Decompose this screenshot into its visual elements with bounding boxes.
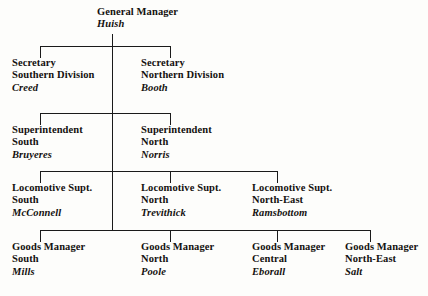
node-role: Secretary: [12, 57, 95, 69]
node-region: Central: [252, 253, 325, 265]
node-locomotive-supt-north-east: Locomotive Supt. North-East Ramsbottom: [252, 182, 332, 219]
org-chart: General Manager Huish Secretary Southern…: [0, 0, 428, 296]
node-region: Southern Division: [12, 69, 95, 81]
node-role: Goods Manager: [252, 241, 325, 253]
node-goods-manager-south: Goods Manager South Mills: [12, 241, 85, 278]
node-region: North: [141, 253, 214, 265]
node-person: McConnell: [12, 207, 92, 219]
node-person: Salt: [345, 266, 418, 278]
node-person: Creed: [12, 82, 95, 94]
node-superintendent-north: Superintendent North Norris: [141, 124, 212, 161]
node-person: Norris: [141, 149, 212, 161]
connector-bar-level3: [40, 171, 278, 172]
node-secretary-northern-division: Secretary Northern Division Booth: [141, 57, 224, 94]
node-role: Goods Manager: [141, 241, 214, 253]
node-role: General Manager: [97, 6, 178, 18]
node-region: North-East: [345, 253, 418, 265]
node-person: Huish: [97, 18, 178, 30]
node-person: Bruyeres: [12, 149, 83, 161]
node-person: Poole: [141, 266, 214, 278]
node-role: Locomotive Supt.: [12, 182, 92, 194]
node-role: Goods Manager: [345, 241, 418, 253]
connector-bar-level4: [40, 230, 371, 231]
node-region: South: [12, 136, 83, 148]
connector-bar-level2: [40, 113, 171, 114]
node-region: South: [12, 194, 92, 206]
node-role: Goods Manager: [12, 241, 85, 253]
node-goods-manager-north-east: Goods Manager North-East Salt: [345, 241, 418, 278]
node-superintendent-south: Superintendent South Bruyeres: [12, 124, 83, 161]
node-locomotive-supt-south: Locomotive Supt. South McConnell: [12, 182, 92, 219]
node-secretary-southern-division: Secretary Southern Division Creed: [12, 57, 95, 94]
connector-bar-level1: [40, 46, 171, 47]
node-role: Locomotive Supt.: [252, 182, 332, 194]
node-region: North: [141, 136, 212, 148]
node-goods-manager-central: Goods Manager Central Eborall: [252, 241, 325, 278]
node-role: Secretary: [141, 57, 224, 69]
node-person: Ramsbottom: [252, 207, 332, 219]
node-role: Superintendent: [141, 124, 212, 136]
node-person: Booth: [141, 82, 224, 94]
node-general-manager: General Manager Huish: [97, 6, 178, 31]
node-region: North: [141, 194, 221, 206]
node-role: Locomotive Supt.: [141, 182, 221, 194]
node-locomotive-supt-north: Locomotive Supt. North Trevithick: [141, 182, 221, 219]
node-region: South: [12, 253, 85, 265]
node-role: Superintendent: [12, 124, 83, 136]
connector-spine: [112, 34, 113, 230]
node-person: Eborall: [252, 266, 325, 278]
node-region: North-East: [252, 194, 332, 206]
node-person: Mills: [12, 266, 85, 278]
node-region: Northern Division: [141, 69, 224, 81]
node-person: Trevithick: [141, 207, 221, 219]
node-goods-manager-north: Goods Manager North Poole: [141, 241, 214, 278]
